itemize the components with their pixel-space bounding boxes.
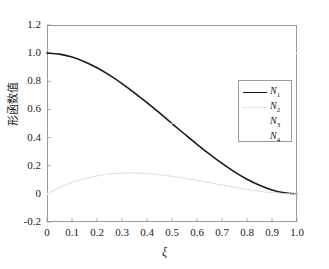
x-axis-title: ξ [0, 245, 329, 260]
x-axis-ticks [47, 218, 297, 222]
x-tick-label: 1.0 [283, 227, 311, 238]
x-tick-label: 0.2 [83, 227, 111, 238]
y-tick-label: 1.0 [3, 47, 41, 58]
x-tick-label: 0.6 [183, 227, 211, 238]
x-tick-label: 0.3 [108, 227, 136, 238]
legend-item-N2[interactable]: N2 [239, 100, 293, 115]
x-tick-label: 0.1 [58, 227, 86, 238]
legend-label: N3 [270, 115, 280, 129]
legend-item-N4[interactable]: N4 [239, 130, 293, 145]
series-line-N2 [47, 173, 297, 194]
figure-container: -0.200.20.40.60.81.01.2 00.10.20.30.40.5… [0, 0, 329, 269]
x-tick-label: 0.8 [233, 227, 261, 238]
legend-line-sample [243, 107, 267, 108]
y-tick-label: -0.2 [3, 216, 41, 227]
legend-line-sample [243, 92, 267, 93]
y-tick-label: 0.2 [3, 160, 41, 171]
y-tick-label: 1.2 [3, 19, 41, 30]
x-tick-label: 0.9 [258, 227, 286, 238]
legend-item-N3[interactable]: N3 [239, 115, 293, 130]
x-tick-label: 0 [33, 227, 61, 238]
y-tick-label: 0 [3, 188, 41, 199]
x-tick-label: 0.5 [158, 227, 186, 238]
series-line-N4 [47, 194, 297, 215]
legend: N1N2N3N4 [238, 80, 292, 142]
legend-label: N2 [270, 100, 280, 114]
legend-label: N4 [270, 130, 280, 144]
x-tick-label: 0.7 [208, 227, 236, 238]
y-axis-title: 形函数值 [4, 64, 20, 144]
legend-item-N1[interactable]: N1 [239, 85, 293, 100]
x-tick-label: 0.4 [133, 227, 161, 238]
legend-label: N1 [270, 85, 280, 99]
